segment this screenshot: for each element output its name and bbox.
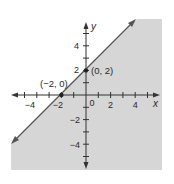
x-tick-label-neg4: −4: [25, 100, 35, 110]
y-axis-up-arrow-icon: [84, 22, 89, 29]
inequality-graph: y x −4 −2 0 2 4 4 2 −2 −4 (−2, 0) (0, 2): [0, 0, 174, 184]
origin-label: 0: [90, 98, 95, 108]
x-axis-label: x: [152, 98, 159, 109]
point-0-2: [84, 68, 88, 72]
point-label-neg2-0: (−2, 0): [40, 78, 68, 89]
y-tick-label-neg2: −2: [70, 115, 80, 125]
y-axis-label: y: [90, 21, 97, 32]
x-tick-label-4: 4: [133, 100, 138, 110]
x-tick-label-2: 2: [108, 100, 113, 110]
point-neg2-0: [59, 93, 63, 97]
point-label-0-2: (0, 2): [91, 65, 113, 76]
x-tick-label-neg2: −2: [53, 100, 63, 110]
y-tick-label-4: 4: [74, 41, 79, 51]
y-tick-label-neg4: −4: [70, 140, 80, 150]
x-axis-left-arrow-icon: [11, 93, 18, 98]
y-tick-label-2: 2: [74, 65, 79, 75]
